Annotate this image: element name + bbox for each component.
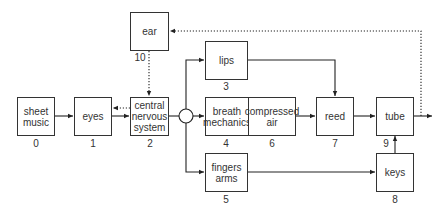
- block-label: sheet music: [23, 106, 49, 128]
- block-number: 2: [140, 138, 160, 149]
- block-number: 5: [216, 194, 236, 205]
- edge-3-7: [248, 60, 335, 96]
- block-label: keys: [385, 167, 406, 178]
- block-number: 9: [376, 138, 396, 149]
- block-label: breath mechanics: [203, 106, 251, 128]
- block-number: 4: [216, 138, 236, 149]
- block-number: 7: [325, 138, 345, 149]
- block-label: lips: [219, 55, 234, 66]
- block-eyes: eyes: [74, 97, 112, 136]
- block-label: tube: [385, 111, 404, 122]
- block-compressed-air: compressed air: [248, 97, 296, 136]
- block-number: 3: [216, 81, 236, 92]
- edge-j-5: [186, 123, 204, 172]
- block-label: compressed air: [245, 106, 299, 128]
- block-tube: tube: [376, 97, 414, 136]
- block-label: ear: [142, 26, 156, 37]
- block-label: eyes: [82, 111, 103, 122]
- block-label: central nervous system: [132, 100, 168, 133]
- edge-j-3: [186, 60, 204, 109]
- block-label: reed: [325, 111, 345, 122]
- block-ear: ear: [130, 12, 169, 51]
- block-number: 8: [385, 194, 405, 205]
- block-label: fingers arms: [211, 162, 241, 184]
- block-lips: lips: [205, 41, 248, 80]
- block-number: 1: [83, 138, 103, 149]
- summing-junction: [179, 109, 193, 123]
- block-reed: reed: [316, 97, 354, 136]
- block-number: 6: [262, 138, 282, 149]
- block-sheet-music: sheet music: [17, 97, 55, 136]
- block-number: 0: [26, 138, 46, 149]
- block-central-nervous-system: central nervous system: [130, 97, 169, 136]
- block-fingers-arms: fingers arms: [205, 153, 248, 192]
- block-keys: keys: [376, 153, 414, 192]
- block-number: 10: [130, 52, 150, 63]
- block-breath-mechanics: breath mechanics: [205, 97, 249, 136]
